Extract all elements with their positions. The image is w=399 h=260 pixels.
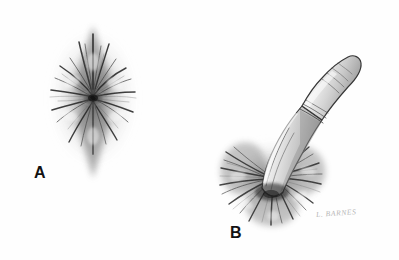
illustration-figure: A B L. BARNES: [0, 0, 399, 260]
panel-label-a: A: [34, 165, 46, 181]
illustration-canvas: [0, 0, 399, 260]
panel-label-b: B: [230, 225, 242, 241]
paper-grain-overlay: [0, 0, 399, 260]
